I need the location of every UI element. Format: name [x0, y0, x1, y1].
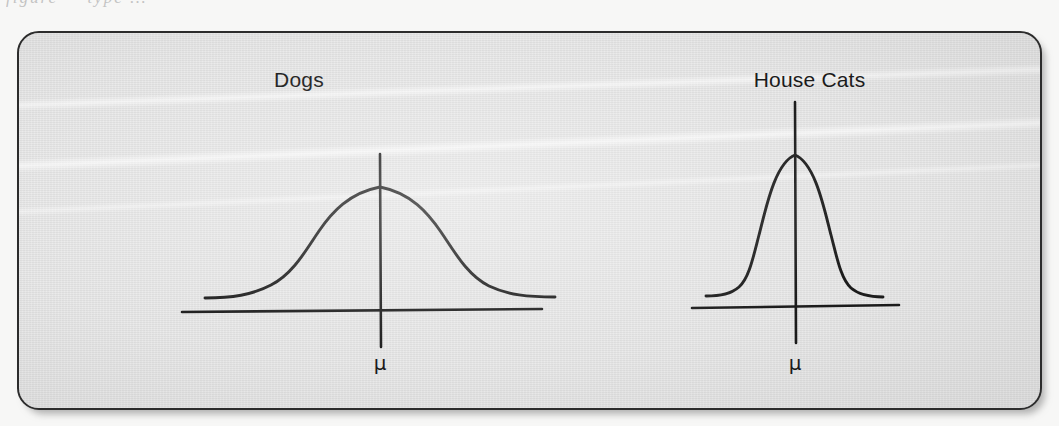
plot-dogs: Dogs μ: [19, 33, 579, 408]
caption-remnant-text: figure — type …: [6, 0, 326, 10]
plot-dogs-canvas: [19, 33, 579, 408]
x-axis-line-dogs: [182, 309, 542, 312]
mean-axis-line-dogs: [380, 154, 381, 347]
figure-page: figure — type … Dogs μ House Cats: [0, 0, 1059, 426]
mean-symbol-house-cats: μ: [775, 351, 815, 375]
plot-house-cats: House Cats μ: [579, 33, 1040, 408]
figure-panel: Dogs μ House Cats μ: [17, 31, 1042, 410]
mean-axis-line-house-cats: [795, 102, 796, 343]
mean-symbol-dogs: μ: [360, 351, 400, 375]
